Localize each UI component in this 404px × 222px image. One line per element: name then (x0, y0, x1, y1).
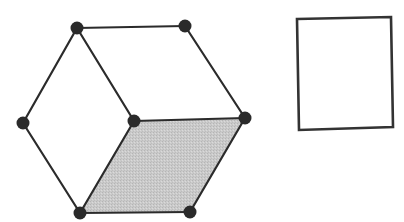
edge-top-right-right (185, 26, 245, 118)
node-right (239, 112, 252, 125)
edge-left-bottom-left (23, 123, 80, 213)
node-left (17, 117, 30, 130)
node-top-left (71, 22, 84, 35)
node-top-right (179, 20, 192, 33)
node-center (128, 115, 141, 128)
edge-bottom-left-bottom-right (80, 212, 190, 213)
edge-top-left-center (77, 28, 134, 121)
edge-top-left-top-right (77, 26, 185, 28)
diagram-canvas (0, 0, 404, 222)
separate-rectangle (297, 17, 393, 130)
node-bottom-right (184, 206, 197, 219)
edge-top-left-left (23, 28, 77, 123)
shaded-rhombus-face (80, 118, 245, 213)
node-bottom-left (74, 207, 87, 220)
